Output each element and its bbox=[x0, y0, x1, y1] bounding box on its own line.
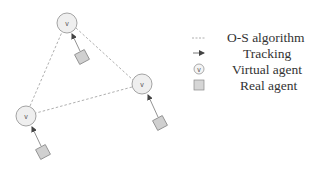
virtual-agent-left: v bbox=[16, 106, 36, 126]
tracking-arrow-right bbox=[148, 95, 158, 117]
os-algorithm-diagram: v v v O-S algorithm Tracking v Virtual a… bbox=[0, 0, 325, 170]
virtual-agent-right: v bbox=[132, 74, 152, 94]
virtual-agent-top: v bbox=[57, 13, 77, 33]
virtual-agent-label: v bbox=[140, 81, 144, 88]
legend-label: Tracking bbox=[243, 46, 292, 61]
os-links bbox=[30, 28, 133, 113]
real-agent-icon bbox=[194, 80, 204, 90]
real-agent-top bbox=[75, 50, 90, 65]
legend-label: Real agent bbox=[240, 78, 298, 93]
legend: O-S algorithm Tracking v Virtual agent R… bbox=[192, 30, 305, 93]
tracking-arrow-left bbox=[32, 127, 41, 146]
legend-item-real-agent: Real agent bbox=[194, 78, 298, 93]
virtual-agent-icon-glyph: v bbox=[197, 66, 201, 73]
virtual-agent-label: v bbox=[24, 113, 28, 120]
real-agent-left bbox=[36, 145, 51, 160]
legend-label: Virtual agent bbox=[232, 62, 302, 77]
real-agent-right bbox=[153, 116, 168, 131]
virtual-agent-label: v bbox=[65, 20, 69, 27]
legend-item-os-algorithm: O-S algorithm bbox=[192, 30, 305, 45]
tracking-arrow-top bbox=[72, 34, 80, 51]
os-link-right-left bbox=[36, 87, 132, 113]
legend-item-tracking: Tracking bbox=[193, 46, 292, 61]
os-link-left-top bbox=[30, 32, 62, 106]
legend-label: O-S algorithm bbox=[227, 30, 305, 45]
legend-item-virtual-agent: v Virtual agent bbox=[194, 62, 302, 77]
